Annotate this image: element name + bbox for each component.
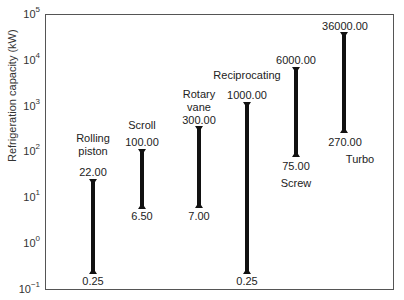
min-label-screw: 75.00 [282,160,310,173]
y-tick-1e0: 100 [4,235,40,249]
max-marker-icon [243,102,251,108]
min-label-turbo: 270.00 [328,136,362,149]
min-label-rolling-piston: 0.25 [82,275,103,288]
y-tick-1e5: 105 [4,6,40,20]
label-scroll: Scroll [128,119,156,132]
y-tick-1e1: 101 [4,189,40,203]
range-bar-turbo [342,33,346,132]
min-marker-icon [195,202,203,208]
min-marker-icon [292,151,300,157]
min-label-reciprocating: 0.25 [236,275,257,288]
range-bar-scroll [140,150,144,207]
max-label-reciprocating: 1000.00 [227,89,267,102]
max-label-screw: 6000.00 [276,54,316,67]
min-label-rotary-vane: 7.00 [188,210,209,223]
y-tick-1e2: 102 [4,143,40,157]
min-marker-icon [340,127,348,133]
min-label-scroll: 6.50 [131,210,152,223]
min-marker-icon [243,268,251,274]
max-marker-icon [138,149,146,155]
max-marker-icon [195,126,203,132]
max-marker-icon [292,67,300,73]
label-turbo: Turbo [346,153,374,166]
label-screw: Screw [281,177,312,190]
capacity-range-chart: Refrigeration capacity (kW) 105 104 103 … [0,0,404,300]
label-rolling-piston: Rollingpiston [76,132,110,158]
max-marker-icon [340,32,348,38]
y-tick-1e4: 104 [4,52,40,66]
max-label-rolling-piston: 22.00 [79,166,107,179]
max-label-scroll: 100.00 [125,136,159,149]
y-tick-1e-1: 10−1 [4,281,40,295]
y-tick-1e3: 103 [4,98,40,112]
range-bar-rotary-vane [197,127,201,207]
min-marker-icon [138,203,146,209]
range-bar-rolling-piston [91,180,95,272]
range-bar-screw [294,68,298,156]
label-reciprocating: Reciprocating [213,69,280,82]
max-marker-icon [89,179,97,185]
label-rotary-vane: Rotaryvane [183,88,215,114]
range-bar-reciprocating [245,103,249,272]
min-marker-icon [89,268,97,274]
